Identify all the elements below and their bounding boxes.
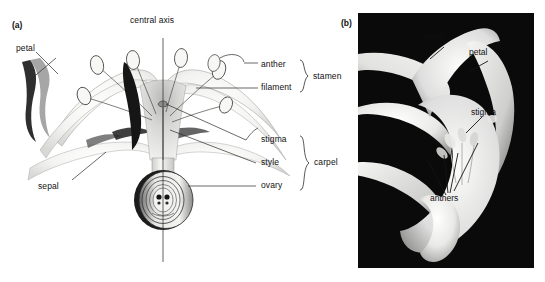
label-style: style — [261, 158, 279, 167]
figure-flower-structure: (a) — [0, 0, 545, 282]
label-petal: petal — [16, 44, 35, 53]
label-stamen: stamen — [313, 72, 341, 81]
label-central-axis: central axis — [130, 16, 174, 25]
panel-b-photo-artwork — [358, 13, 534, 268]
label-filament: filament — [261, 83, 292, 92]
label-b-stigma: stigma — [471, 107, 496, 117]
panel-b-photograph: sepal petal stigma anthers — [358, 13, 534, 268]
petal-shape-far-left — [22, 60, 36, 142]
label-carpel: carpel — [314, 158, 338, 167]
label-b-anthers: anthers — [430, 193, 458, 203]
label-anther: anther — [261, 60, 286, 69]
anther-callout-curve — [220, 55, 244, 62]
label-b-sepal: sepal — [424, 31, 444, 41]
brace-group — [300, 60, 309, 190]
panel-b-tag: (b) — [341, 18, 352, 28]
panel-a: (a) — [0, 0, 345, 282]
brace-carpel — [300, 136, 309, 190]
label-stigma: stigma — [261, 135, 287, 144]
brace-stamen — [300, 60, 308, 92]
label-ovary: ovary — [261, 181, 282, 190]
panel-b: (b) — [345, 0, 545, 282]
label-b-petal: petal — [469, 47, 487, 57]
ovary-cross-section — [134, 170, 193, 230]
label-sepal: sepal — [38, 182, 59, 191]
panel-a-artwork — [0, 0, 345, 282]
